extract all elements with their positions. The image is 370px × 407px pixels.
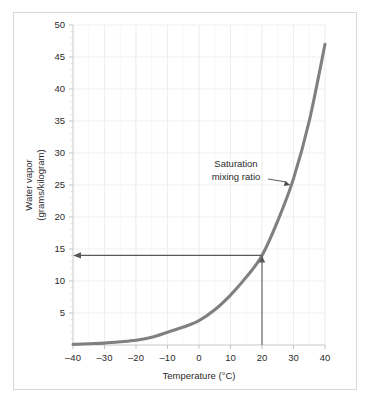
y-tick-label: 5 bbox=[60, 307, 65, 318]
x-axis-title: Temperature (°C) bbox=[163, 370, 236, 381]
y-tick-label: 15 bbox=[54, 243, 65, 254]
y-axis-tick-labels: 5101520253035404550 bbox=[54, 19, 65, 318]
y-tick-label: 50 bbox=[54, 19, 65, 30]
saturation-mixing-ratio-chart: 5101520253035404550 –40–30–20–1001020304… bbox=[0, 0, 370, 407]
x-tick-label: 20 bbox=[257, 352, 268, 363]
x-axis-tick-labels: –40–30–20–10010203040 bbox=[65, 352, 330, 363]
y-axis-title-line1: Water vapor bbox=[23, 159, 34, 210]
y-tick-label: 20 bbox=[54, 211, 65, 222]
y-tick-label: 25 bbox=[54, 179, 65, 190]
x-tick-label: 0 bbox=[196, 352, 201, 363]
y-tick-label: 45 bbox=[54, 51, 65, 62]
annotation-label-line2: mixing ratio bbox=[212, 171, 261, 182]
x-axis-ticks bbox=[73, 345, 325, 349]
annotation-label-line1: Saturation bbox=[214, 158, 257, 169]
x-tick-label: 40 bbox=[320, 352, 331, 363]
x-tick-label: –10 bbox=[160, 352, 176, 363]
y-tick-label: 35 bbox=[54, 115, 65, 126]
x-tick-label: –30 bbox=[97, 352, 113, 363]
x-tick-label: –20 bbox=[128, 352, 144, 363]
y-tick-label: 30 bbox=[54, 147, 65, 158]
y-tick-label: 40 bbox=[54, 83, 65, 94]
y-axis-ticks bbox=[69, 25, 73, 313]
x-tick-label: –40 bbox=[65, 352, 81, 363]
y-axis-title-line2: (grams/kilogram) bbox=[35, 149, 46, 220]
y-tick-label: 10 bbox=[54, 275, 65, 286]
x-tick-label: 30 bbox=[288, 352, 299, 363]
figure-container: 5101520253035404550 –40–30–20–1001020304… bbox=[0, 0, 370, 407]
x-tick-label: 10 bbox=[225, 352, 236, 363]
